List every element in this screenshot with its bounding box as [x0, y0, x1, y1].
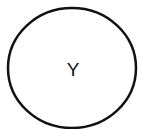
diagram-canvas: Y: [0, 0, 143, 129]
node-label: Y: [67, 59, 80, 80]
node-y: Y: [8, 8, 136, 128]
